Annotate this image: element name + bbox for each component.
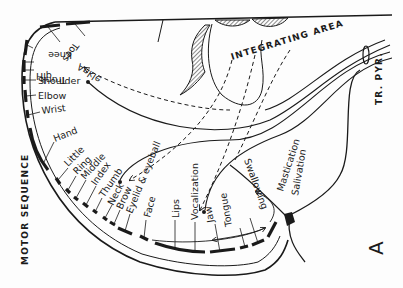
label-swallowing: Swallowing — [242, 157, 271, 211]
sulcus-hatch-left — [180, 25, 210, 95]
sulcus-hatch-top2 — [252, 18, 288, 26]
label-face: Face — [141, 195, 157, 219]
label-tongue: Tongue — [217, 192, 234, 228]
small-tick — [158, 20, 163, 42]
label-hand: Hand — [52, 124, 79, 144]
label-lips: Lips — [170, 199, 181, 218]
label-shoulder: Shoulder — [38, 75, 80, 86]
label-jaw: Jaw — [202, 205, 216, 224]
diagram-svg: INTEGRATING AREA TR. PYR. MOTOR SEQUENCE… — [0, 0, 403, 288]
motor-sequence-label: MOTOR SEQUENCE — [20, 154, 30, 265]
tract-label: TR. PYR. — [374, 52, 384, 105]
label-eyelid-eyeball: Eyelid & eyeball — [124, 140, 163, 215]
integrating-area-label: INTEGRATING AREA — [230, 18, 345, 62]
label-elbow: Elbow — [38, 90, 66, 101]
motor-homunculus-diagram: INTEGRATING AREA TR. PYR. MOTOR SEQUENCE… — [0, 0, 403, 288]
label-wrist: Wrist — [41, 102, 67, 116]
label-vocalization: Vocalization — [189, 163, 200, 220]
sulcus-hatch-top1 — [215, 20, 250, 26]
integrating-area-outline — [208, 24, 263, 105]
panel-letter: A — [364, 241, 388, 255]
label-knee: Knee — [48, 50, 72, 61]
junction-blob — [284, 212, 295, 226]
